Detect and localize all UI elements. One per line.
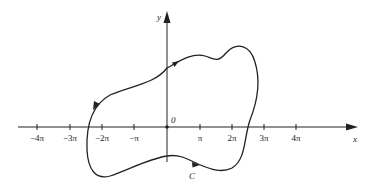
y-axis: [164, 11, 171, 162]
x-axis-label: x: [352, 134, 357, 144]
curve-label: C: [189, 171, 196, 181]
tick-label: −2π: [95, 133, 110, 143]
origin-point: [165, 125, 169, 129]
tick-label: −4π: [30, 133, 45, 143]
x-axis: [18, 124, 358, 131]
tick-label: 4π: [291, 133, 301, 143]
y-axis-label: y: [156, 12, 161, 22]
curve-arrow-top-icon: [172, 61, 179, 67]
diagram-canvas: −4π −3π −2π −π π 2π 3π 4π 0 x y C: [0, 0, 375, 190]
tick-label: 3π: [259, 133, 269, 143]
tick-label: 2π: [227, 133, 237, 143]
x-axis-arrow-icon: [346, 124, 358, 131]
y-axis-arrow-icon: [164, 11, 171, 23]
tick-label: −3π: [63, 133, 78, 143]
closed-curve-diagram: −4π −3π −2π −π π 2π 3π 4π 0 x y C: [0, 0, 375, 190]
curve-c: [87, 46, 258, 177]
origin-label: 0: [171, 115, 176, 125]
tick-label: −π: [129, 133, 139, 143]
curve-arrow-left-icon: [93, 101, 100, 110]
tick-label: π: [198, 133, 203, 143]
